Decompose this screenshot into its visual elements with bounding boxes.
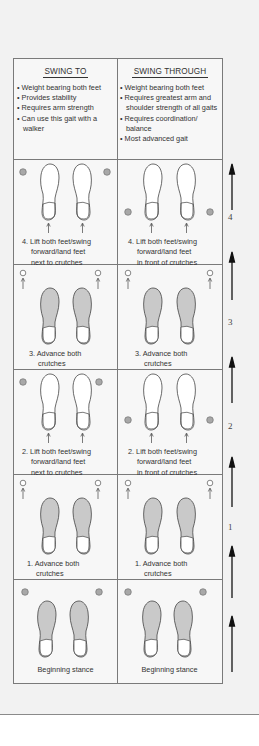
cell-swing-to-step-2: 2. Lift both feet/swing forward/land fee… xyxy=(14,370,117,474)
step-caption: 1. Advance both crutches xyxy=(14,559,117,580)
crutch-tip-outline-icon xyxy=(95,270,101,276)
crutch-tip-outline-icon xyxy=(95,480,101,486)
right-foot-icon xyxy=(73,374,91,430)
left-foot-icon xyxy=(144,374,162,430)
left-foot-icon xyxy=(41,498,59,554)
left-foot-icon xyxy=(38,601,56,657)
cell-swing-through-beginning-stance: Beginning stance xyxy=(118,580,221,684)
cell-swing-through-step-3: 3. Advance both crutches xyxy=(118,265,221,369)
up-arrow-icon xyxy=(81,223,84,233)
up-arrow-icon xyxy=(208,488,211,499)
crutch-tip-outline-icon xyxy=(207,480,213,486)
step-number: 2 xyxy=(228,421,233,431)
cell-swing-to-step-4: 4. Lift both feet/swing forward/land fee… xyxy=(14,160,117,264)
step-caption: 4. Lift both feet/swing forward/land fee… xyxy=(14,237,117,268)
up-arrow-icon xyxy=(185,433,188,443)
crutch-tip-outline-icon xyxy=(125,480,131,486)
bullet: • Requires coordination/ balance xyxy=(119,114,222,134)
swing-to-title: SWING TO xyxy=(43,67,89,78)
cell-swing-to-beginning-stance: Beginning stance xyxy=(14,580,117,684)
crutch-tip-outline-icon xyxy=(125,270,131,276)
step-number: 1 xyxy=(228,522,233,532)
step-caption: 2. Lift both feet/swing forward/land fee… xyxy=(118,447,221,478)
crutch-tip-icon xyxy=(96,589,103,596)
swing-to-header: SWING TO • Weight bearing both feet • Pr… xyxy=(14,59,117,159)
up-arrow-icon xyxy=(150,433,153,443)
left-foot-icon xyxy=(143,601,161,657)
up-arrow-icon xyxy=(150,223,153,233)
right-foot-icon xyxy=(177,374,195,430)
bullet: • Requires greatest arm and shoulder str… xyxy=(119,93,222,113)
arrowhead-icon xyxy=(230,357,235,367)
bullet: • Provides stability xyxy=(16,93,117,103)
up-arrow-icon xyxy=(126,278,129,289)
up-arrow-icon xyxy=(21,278,24,289)
left-foot-icon xyxy=(144,288,162,344)
crutch-tip-icon xyxy=(125,417,132,424)
step-caption: 2. Lift both feet/swing forward/land fee… xyxy=(14,447,117,478)
step-caption: Beginning stance xyxy=(14,665,117,675)
right-foot-icon xyxy=(177,164,195,220)
step-number: 3 xyxy=(228,317,233,327)
crutch-tip-icon xyxy=(207,417,214,424)
right-foot-icon xyxy=(73,164,91,220)
swing-to-bullets: • Weight bearing both feet • Provides st… xyxy=(16,83,117,134)
right-foot-icon xyxy=(177,498,195,554)
step-number: 4 xyxy=(228,212,233,222)
bullet: • Weight bearing both feet xyxy=(119,83,222,93)
crutch-gait-table: SWING TO • Weight bearing both feet • Pr… xyxy=(13,58,223,684)
cell-swing-through-step-4: 4. Lift both feet/swing forward/land fee… xyxy=(118,160,221,264)
arrowhead-icon xyxy=(230,616,235,626)
step-caption: 3. Advance both crutches xyxy=(14,349,117,370)
up-arrow-icon xyxy=(47,223,50,233)
cell-swing-through-step-2: 2. Lift both feet/swing forward/land fee… xyxy=(118,370,221,474)
crutch-tip-outline-icon xyxy=(20,480,26,486)
crutch-tip-icon xyxy=(22,589,29,596)
cell-swing-to-step-3: 3. Advance both crutches xyxy=(14,265,117,369)
right-foot-icon xyxy=(70,601,88,657)
step-caption: 4. Lift both feet/swing forward/land fee… xyxy=(118,237,221,268)
crutch-tip-outline-icon xyxy=(20,270,26,276)
up-arrow-icon xyxy=(126,488,129,499)
swing-through-header: SWING THROUGH • Weight bearing both feet… xyxy=(118,59,222,159)
left-foot-icon xyxy=(41,288,59,344)
up-arrow-icon xyxy=(96,278,99,289)
arrowhead-icon xyxy=(230,546,235,556)
bullet: • Can use this gait with a walker xyxy=(16,114,117,134)
crutch-tip-outline-icon xyxy=(207,270,213,276)
crutch-tip-icon xyxy=(104,169,111,176)
crutch-tip-icon xyxy=(200,589,207,596)
arrowhead-icon xyxy=(230,164,235,174)
crutch-tip-icon xyxy=(125,589,132,596)
up-arrow-icon xyxy=(208,278,211,289)
cell-swing-to-step-1: 1. Advance both crutches xyxy=(14,475,117,579)
right-foot-icon xyxy=(73,288,91,344)
right-foot-icon xyxy=(73,498,91,554)
crutch-tip-icon xyxy=(125,209,132,216)
crutch-tip-icon xyxy=(20,379,27,386)
swing-through-title: SWING THROUGH xyxy=(132,67,209,78)
up-arrow-icon xyxy=(81,433,84,443)
right-foot-icon xyxy=(174,601,192,657)
progression-arrows xyxy=(225,160,241,680)
crutch-tip-icon xyxy=(207,209,214,216)
bullet: • Weight bearing both feet xyxy=(16,83,117,93)
crutch-tip-icon xyxy=(20,169,27,176)
bullet: • Most advanced gait xyxy=(119,134,222,144)
arrowhead-icon xyxy=(230,252,235,262)
up-arrow-icon xyxy=(21,488,24,499)
left-foot-icon xyxy=(144,498,162,554)
up-arrow-icon xyxy=(185,223,188,233)
step-caption: Beginning stance xyxy=(118,665,221,675)
left-foot-icon xyxy=(41,374,59,430)
up-arrow-icon xyxy=(47,433,50,443)
cell-swing-through-step-1: 1. Advance both crutches xyxy=(118,475,221,579)
bullet: • Requires arm strength xyxy=(16,103,117,113)
left-foot-icon xyxy=(41,164,59,220)
step-caption: 1. Advance both crutches xyxy=(118,559,221,580)
swing-through-bullets: • Weight bearing both feet • Requires gr… xyxy=(119,83,222,144)
arrowhead-icon xyxy=(230,457,235,467)
left-foot-icon xyxy=(144,164,162,220)
right-foot-icon xyxy=(177,288,195,344)
step-caption: 3. Advance both crutches xyxy=(118,349,221,370)
